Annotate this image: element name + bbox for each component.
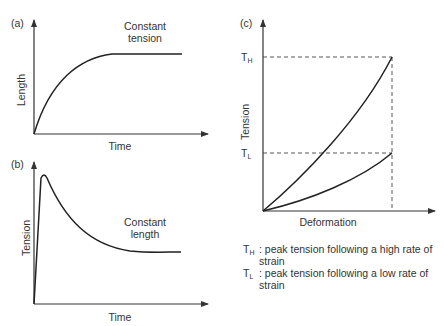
legend-key-th: TH bbox=[243, 243, 259, 267]
legend-item-tl: TL : peak tension following a low rate o… bbox=[243, 267, 434, 291]
panel-b-y-label: Tension bbox=[20, 220, 32, 256]
panel-c-tag: (c) bbox=[240, 17, 252, 29]
panel-b-tag: (b) bbox=[11, 158, 24, 170]
panel-a: (a) Length Time Constant tension bbox=[11, 17, 208, 152]
length-vs-time-curve bbox=[34, 54, 182, 134]
th-label: TH bbox=[241, 51, 252, 64]
legend-key-tl: TL bbox=[243, 267, 259, 291]
panel-b: (b) Tension Time Constant length bbox=[11, 158, 208, 323]
legend: TH : peak tension following a high rate … bbox=[243, 243, 434, 291]
legend-text-th: : peak tension following a high rate of … bbox=[259, 243, 434, 267]
panel-a-x-label: Time bbox=[109, 140, 132, 152]
panel-c: (c) Tension Deformation TH TL bbox=[239, 17, 435, 228]
panel-a-y-label: Length bbox=[15, 74, 27, 106]
panel-b-x-label: Time bbox=[109, 311, 132, 323]
high-strain-rate-curve bbox=[263, 57, 392, 211]
panel-c-y-label: Tension bbox=[239, 104, 251, 140]
panel-a-annotation-line2: tension bbox=[128, 32, 162, 44]
panel-b-annotation-line2: length bbox=[131, 228, 160, 240]
low-strain-rate-curve bbox=[263, 153, 392, 211]
tl-label: TL bbox=[241, 147, 251, 160]
panel-c-x-label: Deformation bbox=[299, 216, 356, 228]
panel-a-annotation-line1: Constant bbox=[124, 20, 166, 32]
legend-item-th: TH : peak tension following a high rate … bbox=[243, 243, 434, 267]
legend-text-tl: : peak tension following a low rate of s… bbox=[259, 267, 434, 291]
panel-a-tag: (a) bbox=[11, 17, 24, 29]
panel-b-annotation-line1: Constant bbox=[124, 216, 166, 228]
